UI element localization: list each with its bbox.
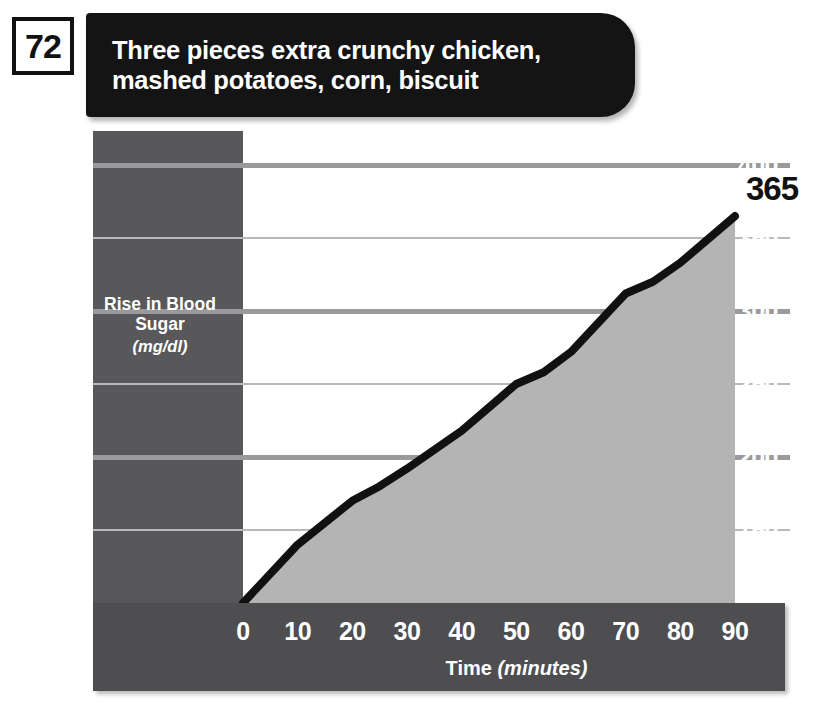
- y-tick-250: 250: [738, 370, 778, 399]
- page-number-box: 72: [12, 17, 74, 75]
- x-axis-units: (minutes): [497, 657, 587, 679]
- x-tick-30: 30: [394, 617, 421, 646]
- title-text: Three pieces extra crunchy chicken, mash…: [86, 35, 541, 95]
- title-bar: Three pieces extra crunchy chicken, mash…: [86, 13, 635, 117]
- page-number-text: 72: [25, 27, 61, 66]
- x-tick-80: 80: [667, 617, 694, 646]
- y-tick-200: 200: [738, 443, 778, 472]
- x-axis-title-text: Time: [446, 657, 492, 679]
- x-axis-title: Time (minutes): [243, 657, 790, 680]
- x-tick-50: 50: [503, 617, 530, 646]
- x-tick-0: 0: [236, 617, 249, 646]
- end-value-label: 365: [746, 170, 798, 208]
- y-tick-150: 150: [738, 516, 778, 545]
- title-line-2: mashed potatoes, corn, biscuit: [112, 65, 541, 95]
- chart-container: 100150200250300350400 Rise in Blood Suga…: [93, 131, 790, 691]
- x-tick-20: 20: [339, 617, 366, 646]
- x-tick-60: 60: [558, 617, 585, 646]
- y-axis-units: (mg/dl): [101, 337, 219, 355]
- y-tick-350: 350: [738, 224, 778, 253]
- title-line-1: Three pieces extra crunchy chicken,: [112, 36, 541, 64]
- x-tick-10: 10: [284, 617, 311, 646]
- x-tick-70: 70: [612, 617, 639, 646]
- y-axis-title: Rise in Blood Sugar (mg/dl): [101, 295, 219, 356]
- x-tick-90: 90: [722, 617, 749, 646]
- x-tick-40: 40: [448, 617, 475, 646]
- y-tick-300: 300: [738, 297, 778, 326]
- y-axis-title-text: Rise in Blood Sugar: [104, 294, 216, 334]
